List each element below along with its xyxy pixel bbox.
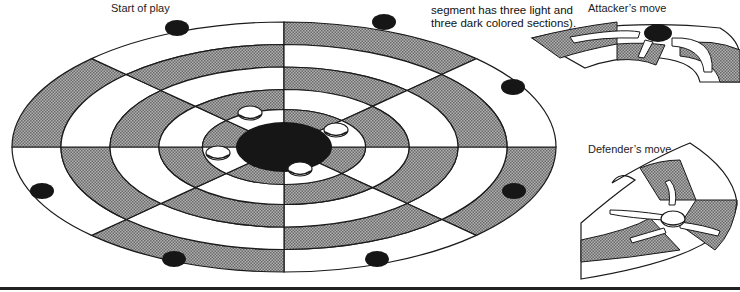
attacker-piece [165, 20, 189, 36]
attacker-piece [501, 79, 525, 95]
board-diagram [0, 0, 740, 292]
attacker-piece [372, 14, 396, 30]
attacker-move-diagram [532, 22, 740, 82]
attacker-piece [365, 251, 389, 267]
attacker-piece [644, 24, 672, 42]
attacker-piece [30, 183, 54, 199]
attacker-piece [502, 183, 526, 199]
bottom-rule [0, 287, 740, 290]
attacker-piece [162, 251, 186, 267]
center-hole [236, 122, 332, 172]
defender-move-diagram [581, 143, 737, 279]
main-board [12, 14, 556, 272]
